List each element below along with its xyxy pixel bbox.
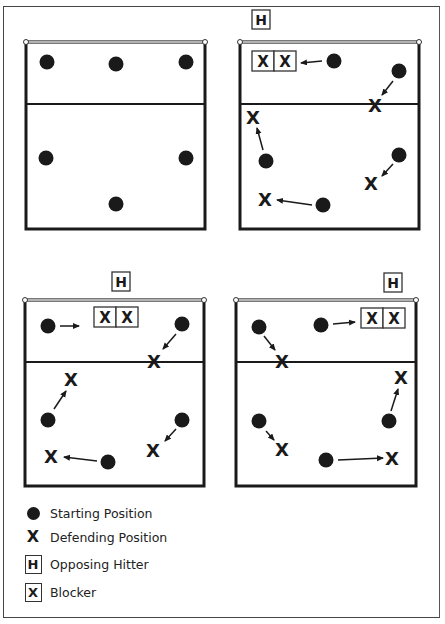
blocker-icon: X X (252, 51, 296, 71)
svg-text:X: X (364, 173, 378, 194)
svg-text:H: H (387, 275, 399, 291)
opposing-hitter-icon: H (25, 555, 42, 574)
svg-text:H: H (255, 12, 267, 28)
svg-text:X: X (394, 367, 408, 388)
defending-position-icon: X X X X (246, 95, 382, 210)
svg-text:X: X (366, 310, 378, 328)
svg-text:X: X (147, 351, 161, 372)
legend-label: Blocker (50, 585, 96, 600)
legend-label: Starting Position (50, 506, 153, 521)
svg-text:X: X (388, 310, 400, 328)
svg-text:X: X (275, 439, 289, 460)
svg-text:X: X (257, 53, 269, 71)
svg-text:X: X (258, 189, 272, 210)
blocker-icon: X X (94, 307, 138, 327)
defending-position-icon: X (27, 529, 39, 545)
svg-text:X: X (121, 309, 133, 327)
svg-text:X: X (246, 107, 260, 128)
blocker-icon: X X (361, 308, 405, 328)
court-starting-formation (24, 40, 208, 230)
svg-text:X: X (64, 369, 78, 390)
legend-label: Opposing Hitter (50, 557, 149, 572)
defending-position-icon: X X X X (275, 351, 408, 469)
legend-item-opposing-hitter: H Opposing Hitter (24, 553, 149, 575)
court-hitter-left-front: H X X X X X X (238, 10, 422, 229)
starting-position-icon (39, 55, 194, 212)
defending-position-icon: X X X X (44, 351, 161, 467)
svg-text:X: X (44, 446, 58, 467)
svg-text:X: X (385, 448, 399, 469)
svg-text:X: X (146, 440, 160, 461)
court-hitter-middle: H X X X X X X (23, 272, 207, 486)
svg-text:X: X (99, 309, 111, 327)
svg-text:X: X (279, 53, 291, 71)
legend-item-defending-position: X Defending Position (24, 526, 167, 548)
blocker-icon: X (25, 583, 42, 602)
legend-item-blocker: X Blocker (24, 581, 96, 603)
svg-text:X: X (368, 95, 382, 116)
starting-position-icon (27, 507, 40, 520)
legend-label: Defending Position (50, 530, 167, 545)
legend-item-starting-position: Starting Position (24, 502, 153, 524)
svg-text:X: X (275, 351, 289, 372)
svg-text:H: H (115, 274, 127, 290)
court-hitter-right-front: H X X X X X X (234, 273, 419, 486)
